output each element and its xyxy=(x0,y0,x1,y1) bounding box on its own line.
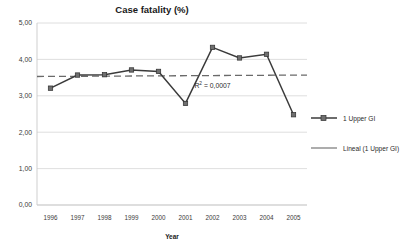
case-fatality-line-chart: Case fatality (%) 0,001,002,003,004,005,… xyxy=(0,0,419,246)
r-squared-suffix: = 0,0007 xyxy=(202,82,231,89)
y-tick-label: 1,00 xyxy=(19,165,32,172)
chart-title: Case fatality (%) xyxy=(115,4,188,15)
x-tick-label: 1998 xyxy=(97,214,112,221)
data-point-marker xyxy=(264,52,268,56)
data-point-marker xyxy=(48,86,52,90)
data-point-marker xyxy=(129,68,133,72)
x-tick-label: 2000 xyxy=(151,214,166,221)
data-point-marker xyxy=(75,73,79,77)
x-tick-label: 2002 xyxy=(205,214,220,221)
y-tick-label: 5,00 xyxy=(19,19,32,26)
data-point-marker xyxy=(210,45,214,49)
legend-label-trend: Lineal (1 Upper GI) xyxy=(343,145,399,153)
data-point-marker xyxy=(156,69,160,73)
legend-swatch-marker-icon xyxy=(321,116,326,121)
x-axis-title: Year xyxy=(165,233,179,240)
y-tick-label: 4,00 xyxy=(19,56,32,63)
x-tick-label: 1997 xyxy=(70,214,85,221)
x-tick-label: 1996 xyxy=(43,214,58,221)
y-tick-label: 2,00 xyxy=(19,129,32,136)
y-tick-label: 0,00 xyxy=(19,201,32,208)
x-tick-label: 1999 xyxy=(124,214,139,221)
chart-background xyxy=(0,0,419,246)
x-tick-label: 2005 xyxy=(286,214,301,221)
data-point-marker xyxy=(291,113,295,117)
x-tick-label: 2001 xyxy=(178,214,193,221)
y-tick-label: 3,00 xyxy=(19,92,32,99)
data-point-marker xyxy=(183,101,187,105)
data-point-marker xyxy=(237,56,241,60)
data-point-marker xyxy=(102,72,106,76)
legend-label-series: 1 Upper GI xyxy=(343,115,375,123)
x-tick-label: 2003 xyxy=(232,214,247,221)
x-tick-label: 2004 xyxy=(259,214,274,221)
